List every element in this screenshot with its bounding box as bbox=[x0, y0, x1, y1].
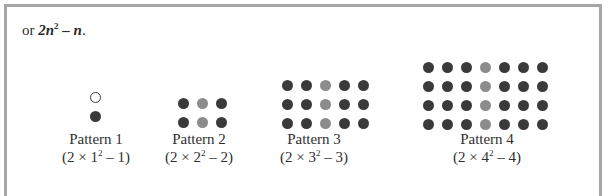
dot bbox=[518, 62, 529, 73]
pattern-3-formula: (2 × 32 – 3) bbox=[280, 148, 348, 166]
pattern-1-formula: (2 × 12 – 1) bbox=[62, 148, 130, 166]
dot bbox=[442, 119, 453, 130]
dot bbox=[197, 117, 208, 128]
dot bbox=[320, 99, 331, 110]
dot bbox=[301, 99, 312, 110]
dot bbox=[518, 100, 529, 111]
dot bbox=[537, 119, 548, 130]
dot bbox=[358, 80, 369, 91]
dot bbox=[178, 117, 189, 128]
dot bbox=[320, 80, 331, 91]
dot bbox=[358, 118, 369, 129]
dot bbox=[178, 98, 189, 109]
formula-expression: 2n2 – n bbox=[38, 22, 82, 38]
dot bbox=[90, 111, 101, 122]
dot bbox=[197, 98, 208, 109]
dot bbox=[480, 100, 491, 111]
dot bbox=[499, 119, 510, 130]
dot bbox=[423, 81, 434, 92]
dot bbox=[499, 62, 510, 73]
dot bbox=[442, 81, 453, 92]
dot bbox=[537, 62, 548, 73]
dot bbox=[339, 99, 350, 110]
dot bbox=[499, 81, 510, 92]
dot bbox=[423, 119, 434, 130]
dot bbox=[423, 100, 434, 111]
dot bbox=[442, 100, 453, 111]
dot bbox=[461, 62, 472, 73]
pattern-2-name: Pattern 2 bbox=[172, 130, 226, 148]
intro-prefix: or bbox=[22, 22, 38, 38]
pattern-1-name: Pattern 1 bbox=[69, 130, 123, 148]
dot bbox=[282, 80, 293, 91]
pattern-4-formula: (2 × 42 – 4) bbox=[453, 148, 521, 166]
dot bbox=[339, 80, 350, 91]
dot bbox=[282, 99, 293, 110]
dot bbox=[480, 119, 491, 130]
dot bbox=[442, 62, 453, 73]
dot bbox=[499, 100, 510, 111]
pattern-3-name: Pattern 3 bbox=[287, 130, 341, 148]
dot bbox=[320, 118, 331, 129]
dot bbox=[461, 119, 472, 130]
dot bbox=[480, 62, 491, 73]
pattern-2-formula: (2 × 22 – 2) bbox=[165, 148, 233, 166]
dot bbox=[423, 62, 434, 73]
dot bbox=[537, 100, 548, 111]
dot bbox=[518, 119, 529, 130]
dot bbox=[282, 118, 293, 129]
dot bbox=[90, 92, 101, 103]
dot bbox=[339, 118, 350, 129]
dot bbox=[461, 81, 472, 92]
dot bbox=[301, 80, 312, 91]
dot bbox=[358, 99, 369, 110]
dot bbox=[480, 81, 491, 92]
dot bbox=[301, 118, 312, 129]
dot bbox=[518, 81, 529, 92]
dot bbox=[216, 98, 227, 109]
intro-text: or 2n2 – n. bbox=[22, 22, 86, 39]
pattern-4-name: Pattern 4 bbox=[460, 130, 514, 148]
dot bbox=[537, 81, 548, 92]
dot bbox=[216, 117, 227, 128]
dot bbox=[461, 100, 472, 111]
